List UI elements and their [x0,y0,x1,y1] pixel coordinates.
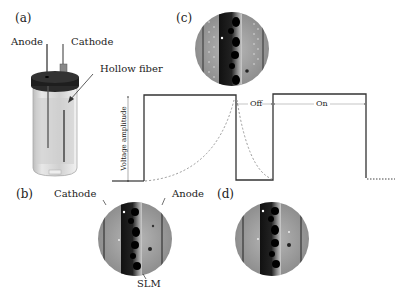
membrane-cathode-label: Cathode [54,189,96,199]
panel-label-d: (d) [217,188,234,200]
cell-illustration [31,44,93,176]
off-label: Off [250,100,262,108]
on-label: On [316,100,328,108]
cell-anode-label: Anode [11,37,43,47]
panel-label-c: (c) [176,12,192,24]
membrane-anode-label: Anode [172,189,204,199]
slm-label: SLM [137,279,161,289]
micrograph-d [235,200,309,280]
cell-cathode-label: Cathode [71,37,113,47]
micrograph-c [195,10,269,90]
figure-canvas [0,0,407,291]
panel-label-b: (b) [16,188,33,200]
micrograph-b [98,198,172,280]
panel-label-a: (a) [15,12,32,24]
hollow-fiber-label: Hollow fiber [100,64,163,74]
y-axis-label: Voltage amplitude [121,99,128,179]
